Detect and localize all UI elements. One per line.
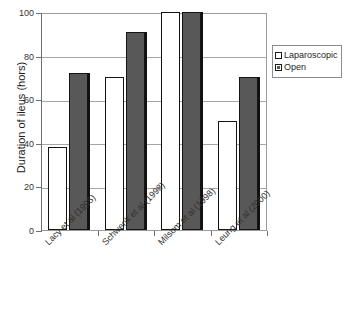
y-tick-20 bbox=[36, 187, 41, 188]
y-axis-title: Duration of ileus (hors) bbox=[16, 28, 27, 208]
legend-entry-laparoscopic: Laparoscopic bbox=[275, 50, 338, 61]
bar-laparoscopic-3 bbox=[218, 121, 237, 230]
y-tick-100 bbox=[36, 13, 41, 14]
y-axis-line bbox=[41, 13, 42, 232]
legend-swatch-icon-laparoscopic bbox=[275, 52, 282, 59]
legend-label-open: Open bbox=[284, 63, 306, 72]
legend-label-laparoscopic: Laparoscopic bbox=[284, 51, 338, 60]
legend-entry-open: Open bbox=[275, 62, 338, 73]
bar-laparoscopic-2 bbox=[161, 12, 180, 230]
bar-chart: 100806040200 Duration of ileus (hors) La… bbox=[0, 0, 344, 319]
y-tick-80 bbox=[36, 57, 41, 58]
chart-legend: LaparoscopicOpen bbox=[272, 45, 342, 78]
bar-laparoscopic-1 bbox=[105, 77, 124, 230]
legend-swatch-icon-open bbox=[275, 64, 282, 71]
y-tick-60 bbox=[36, 100, 41, 101]
gridline-80 bbox=[42, 57, 266, 58]
y-tick-label-100: 100 bbox=[4, 9, 34, 18]
y-tick-40 bbox=[36, 144, 41, 145]
x-axis-category-labels: Lacy et al (1995)Schwenk et al (1998)Mil… bbox=[0, 231, 344, 319]
